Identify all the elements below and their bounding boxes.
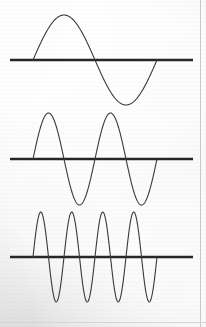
- waveform-figure: Three sine waveforms of increasing frequ…: [0, 0, 206, 327]
- waveform-diagram: [0, 0, 206, 327]
- waveform-panel-2: [10, 113, 193, 205]
- waveform-panel-3: [10, 212, 193, 302]
- waveform-panel-1: [10, 15, 193, 105]
